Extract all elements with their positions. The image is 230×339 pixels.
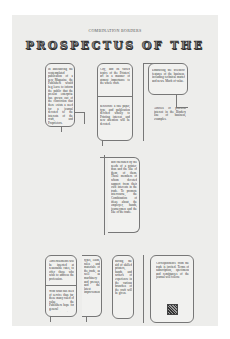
rule [45,285,77,286]
text-top-right-lower: Articles of practical interest in the Bi… [154,107,186,127]
document-page: COMBINATION BORDERS PROSPECTUS OF THE In… [12,15,218,326]
text-bottom-middle-a: types, leads, rules and materials of the… [84,259,100,315]
page-title: PROSPECTUS OF THE [12,39,218,52]
running-head: COMBINATION BORDERS [12,28,218,33]
text-bottom-middle-b: having the aid of skilled printers, hand… [115,260,132,316]
text-bottom-left-upper: Advertisements will be inserted at reaso… [49,260,74,282]
text-top-right-upper: Embracing the scientific features of the… [152,69,185,93]
ornament-icon [167,304,178,315]
rule [143,63,144,141]
text-bottom-left-lower: With what has been of service thus far, … [49,290,74,312]
text-bottom-right: Correspondence from the trade is invited… [156,262,189,288]
rule [176,95,177,107]
rule [104,155,105,235]
text-top-middle-upper: City, and its varied topics of the Print… [100,68,130,94]
text-top-middle-lower: heretofore a fine paper, type, and publi… [100,105,130,131]
text-middle: and cherished by the needs of a printer,… [111,161,137,231]
rule [100,157,108,158]
rule [74,112,84,113]
rule [84,112,85,124]
rule [143,255,144,323]
text-top-left: In announcing the contemplated publicati… [48,68,73,125]
rule [176,107,188,108]
rule [97,96,133,97]
